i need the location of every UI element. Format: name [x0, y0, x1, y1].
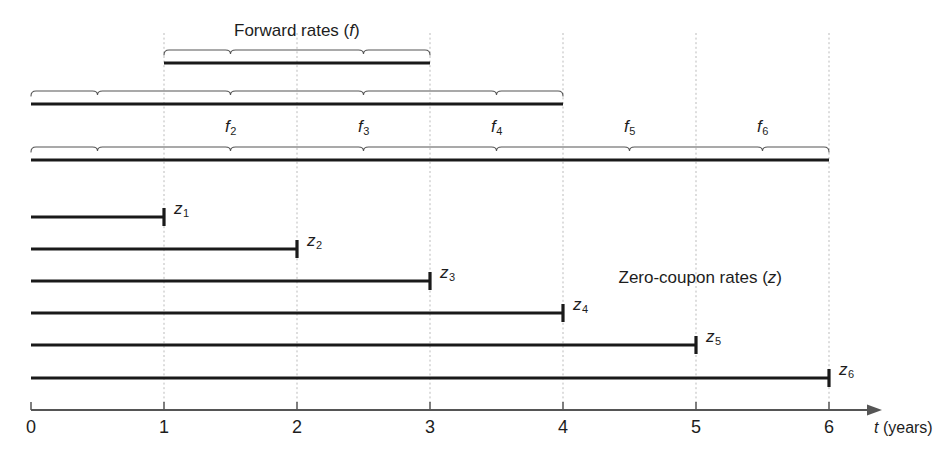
axis-tick-label-3: 3: [425, 418, 435, 436]
zero-rate-label-z1: z1: [174, 200, 189, 217]
rate-structure-diagram: [0, 0, 945, 455]
forward-rate-label-f5: f5: [624, 118, 635, 135]
axis-title: t (years): [874, 420, 933, 436]
time-axis-arrowhead: [867, 405, 882, 416]
forward-rate-label-f4: f4: [491, 118, 502, 135]
figure-canvas: f2f3f4f5f6Forward rates (f)z1z2z3z4z5z6Z…: [0, 0, 945, 455]
axis-tick-label-1: 1: [159, 418, 169, 436]
zero-rate-label-z3: z3: [440, 264, 455, 281]
zero-rate-label-z4: z4: [573, 296, 588, 313]
axis-tick-label-4: 4: [558, 418, 568, 436]
axis-tick-label-2: 2: [292, 418, 302, 436]
forward-rate-label-f6: f6: [757, 118, 768, 135]
axis-tick-label-5: 5: [691, 418, 701, 436]
zero-rate-label-z2: z2: [307, 232, 322, 249]
zero-rate-label-z6: z6: [839, 361, 854, 378]
zero-coupon-rates-title: Zero-coupon rates (z): [619, 269, 782, 286]
forward-rate-label-f3: f3: [358, 118, 369, 135]
axis-tick-label-6: 6: [824, 418, 834, 436]
axis-tick-label-0: 0: [26, 418, 36, 436]
zero-rate-label-z5: z5: [706, 328, 721, 345]
forward-rates-title: Forward rates (f): [234, 22, 360, 39]
forward-rate-label-f2: f2: [225, 118, 236, 135]
